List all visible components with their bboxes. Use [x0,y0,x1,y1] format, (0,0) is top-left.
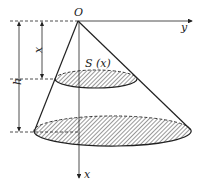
base-section [34,116,191,146]
cross-section-sx [55,70,137,88]
height-label: h [11,78,24,85]
section-area-label: S (x) [85,57,111,70]
cone-diagram: O y x S (x) x h [0,0,197,189]
depth-label: x [32,46,45,53]
dimension-h [17,21,21,132]
y-axis-label: y [180,21,188,34]
origin-label: O [74,6,83,19]
x-axis-label: x [84,168,91,181]
